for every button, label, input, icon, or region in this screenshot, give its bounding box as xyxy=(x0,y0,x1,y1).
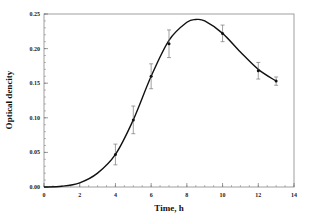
x-axis: 02468101214 xyxy=(43,183,298,198)
data-point xyxy=(257,69,260,72)
y-axis-label: Optical dencity xyxy=(4,70,14,129)
x-tick-label: 8 xyxy=(185,192,188,198)
x-tick-label: 12 xyxy=(255,192,261,198)
x-tick-label: 10 xyxy=(220,192,226,198)
y-tick-label: 0.25 xyxy=(30,11,41,17)
y-tick-label: 0.00 xyxy=(30,184,41,190)
x-tick-label: 0 xyxy=(43,192,46,198)
data-point xyxy=(132,118,135,121)
y-tick-label: 0.20 xyxy=(30,46,41,52)
y-tick-label: 0.15 xyxy=(30,80,41,86)
data-points xyxy=(113,25,278,165)
y-axis: 0.000.050.100.150.200.25 xyxy=(30,11,49,190)
x-tick-label: 14 xyxy=(291,192,297,198)
chart: 0.000.050.100.150.200.25 02468101214 Tim… xyxy=(0,0,312,216)
data-point xyxy=(150,75,153,78)
data-point xyxy=(114,153,117,156)
y-tick-label: 0.10 xyxy=(30,115,41,121)
fit-curve xyxy=(44,19,276,187)
data-point xyxy=(275,80,278,83)
x-axis-label: Time, h xyxy=(154,203,183,213)
x-tick-label: 4 xyxy=(114,192,117,198)
data-point xyxy=(168,42,171,45)
x-tick-label: 6 xyxy=(150,192,153,198)
data-point xyxy=(221,32,224,35)
x-tick-label: 2 xyxy=(78,192,81,198)
y-tick-label: 0.05 xyxy=(30,149,41,155)
